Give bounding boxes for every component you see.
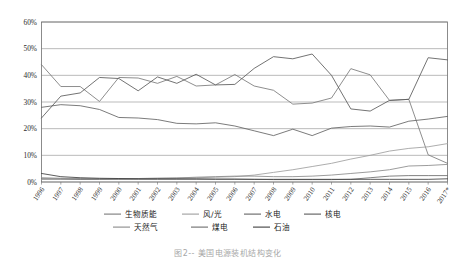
- x-axis-tick-label: 2013: [360, 186, 375, 203]
- series-line-4: [42, 54, 448, 118]
- x-axis-tick-label: 2016: [418, 186, 433, 203]
- x-axis-tick-label: 1999: [90, 186, 105, 203]
- x-axis-tick-label: 2009: [283, 186, 298, 203]
- figure-caption: 图2-- 美国电源装机结构变化: [0, 247, 456, 258]
- x-axis-tick-label: 2011: [322, 186, 337, 202]
- legend-label: 水电: [265, 209, 281, 219]
- x-axis-tick-label: 2002: [148, 186, 163, 203]
- legend-item: 生物质能: [104, 209, 157, 219]
- legend-item: 核电: [304, 209, 341, 219]
- legend-label: 风/光: [203, 209, 222, 219]
- x-axis-tick-label: 2004: [186, 186, 201, 203]
- x-axis-tick-label: 2005: [206, 186, 221, 203]
- y-axis-tick-label: 40%: [23, 71, 37, 80]
- legend-item: 石油: [253, 222, 290, 232]
- x-axis-tick-label: 2017*: [435, 186, 452, 206]
- x-axis-tick-label: 2010: [302, 186, 317, 203]
- y-axis-tick-label: 60%: [23, 18, 37, 27]
- figure-container: 0%10%20%30%40%50%60%19961997199819992000…: [0, 0, 456, 259]
- series-line-1: [42, 65, 448, 164]
- legend-item: 风/光: [182, 209, 222, 219]
- x-axis-tick-label: 2003: [167, 186, 182, 203]
- series-line-2: [42, 144, 448, 180]
- x-axis-tick-label: 2015: [399, 186, 414, 203]
- legend-label: 天然气: [134, 222, 158, 232]
- x-axis-tick-label: 2012: [341, 186, 356, 203]
- x-axis-tick-label: 2008: [264, 186, 279, 203]
- y-axis-tick-label: 0%: [27, 178, 37, 187]
- legend-label: 核电: [325, 209, 341, 219]
- y-axis-tick-label: 50%: [23, 44, 37, 53]
- y-axis-tick-label: 10%: [23, 151, 37, 160]
- y-axis-tick-label: 20%: [23, 124, 37, 133]
- series-line-3: [42, 105, 448, 136]
- legend-label: 石油: [274, 222, 290, 232]
- legend-item: 水电: [244, 209, 281, 219]
- x-axis-tick-label: 1998: [70, 186, 85, 203]
- x-axis-tick-label: 1996: [32, 186, 47, 203]
- legend-item: 煤电: [191, 222, 228, 232]
- line-chart: 0%10%20%30%40%50%60%19961997199819992000…: [0, 0, 456, 247]
- x-axis-tick-label: 2006: [225, 186, 240, 203]
- x-axis-tick-label: 2007: [244, 186, 259, 203]
- y-axis-tick-label: 30%: [23, 98, 37, 107]
- x-axis-tick-label: 2000: [109, 186, 124, 203]
- x-axis-tick-label: 2001: [128, 186, 143, 203]
- x-axis-tick-label: 1997: [51, 186, 66, 203]
- legend-label: 生物质能: [125, 209, 157, 219]
- legend-label: 煤电: [212, 222, 228, 232]
- x-axis-tick-label: 2014: [380, 186, 395, 203]
- legend-item: 天然气: [113, 222, 158, 232]
